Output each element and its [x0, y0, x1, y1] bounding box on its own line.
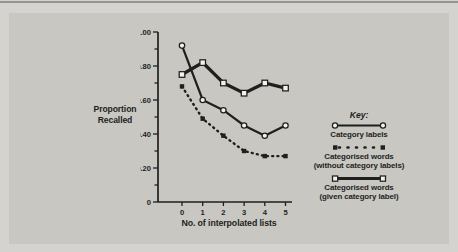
data-point-open-square: [179, 72, 185, 78]
data-point-open-circle: [262, 133, 267, 138]
data-point-open-circle: [221, 108, 226, 113]
y-tick-label: 1.00: [140, 28, 151, 37]
x-tick-label: 3: [242, 208, 246, 217]
y-tick-label: 0.40: [140, 130, 151, 139]
key-label: Categorised words: [300, 183, 418, 193]
key-title: Key:: [300, 110, 418, 120]
data-point-open-circle: [179, 43, 184, 48]
data-point-open-circle: [283, 123, 288, 128]
x-axis-title: No. of interpolated lists: [140, 218, 318, 228]
key-entry-categorised-words-given-label: Categorised words (given category label): [300, 174, 418, 202]
key-label-line2: (without category labels): [300, 161, 418, 171]
series-line-1: [182, 86, 286, 156]
data-point-open-square: [262, 80, 268, 86]
data-point-filled-square: [242, 149, 246, 153]
y-tick-label: 0.80: [140, 62, 151, 71]
data-point-filled-square: [283, 154, 287, 158]
y-tick-label: 0: [147, 198, 151, 207]
chart-key: Key: Category labels Categorised words (…: [300, 110, 418, 205]
data-point-filled-square: [201, 117, 205, 121]
x-tick-label: 2: [221, 208, 225, 217]
key-label: Category labels: [300, 130, 418, 140]
x-tick-label: 5: [283, 208, 288, 217]
data-point-filled-square: [180, 84, 184, 88]
data-point-open-circle: [241, 123, 246, 128]
thick-line-open-square-icon: [330, 174, 388, 183]
series-line-0: [182, 46, 286, 136]
x-tick-label: 1: [201, 208, 206, 217]
key-entry-categorised-words-without-labels: Categorised words (without category labe…: [300, 143, 418, 171]
x-tick-label: 4: [263, 208, 268, 217]
y-tick-label: 0.20: [140, 164, 151, 173]
data-point-open-circle: [200, 97, 205, 102]
data-point-open-square: [241, 90, 247, 96]
page-top-rule: [0, 1, 458, 3]
dotted-line-filled-square-icon: [330, 143, 388, 152]
data-point-open-square: [283, 85, 289, 91]
data-point-open-square: [221, 80, 227, 86]
y-axis-title: Proportion Recalled: [88, 104, 142, 126]
thin-line-open-circle-icon: [330, 121, 388, 130]
x-tick-label: 0: [180, 208, 184, 217]
key-entry-category-labels: Category labels: [300, 121, 418, 140]
key-label: Categorised words: [300, 152, 418, 162]
y-tick-label: 0.60: [140, 96, 151, 105]
figure-panel: Proportion Recalled 00.200.400.600.801.0…: [9, 13, 449, 244]
data-point-filled-square: [263, 154, 267, 158]
data-point-filled-square: [221, 134, 225, 138]
data-point-open-square: [200, 60, 206, 66]
key-label-line2: (given category label): [300, 192, 418, 202]
recall-line-chart: 00.200.400.600.801.00012345: [140, 20, 300, 220]
